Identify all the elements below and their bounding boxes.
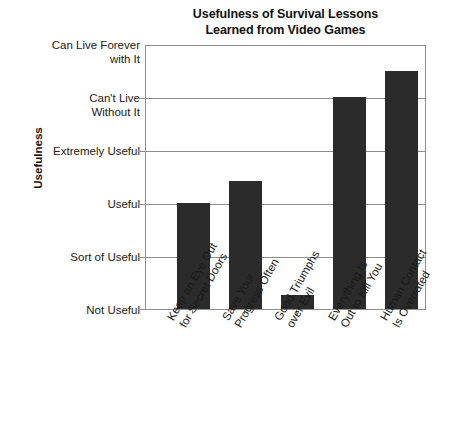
- y-tick-label-line: Can't Live: [0, 91, 140, 105]
- plot-area: [145, 45, 426, 310]
- y-tick-label-line: Without It: [0, 105, 140, 119]
- y-tick-label-line: Useful: [0, 197, 140, 211]
- bar-chart: Usefulness of Survival Lessons Learned f…: [0, 0, 474, 423]
- y-tick-label-extremely-useful: Extremely Useful: [0, 144, 140, 158]
- y-tick-label-line: Can Live Forever: [0, 38, 140, 52]
- y-tick-mark: [138, 257, 145, 258]
- y-tick-label-useful: Useful: [0, 197, 140, 211]
- y-tick-mark: [138, 204, 145, 205]
- y-tick-label-can-live-forever-with-it: Can Live Forever with It: [0, 38, 140, 66]
- y-tick-label-sort-of-useful: Sort of Useful: [0, 250, 140, 264]
- x-axis-labels: Keep an Eye Out for Secret Doors Save Yo…: [0, 310, 474, 423]
- y-tick-mark: [138, 98, 145, 99]
- y-tick-mark: [138, 151, 145, 152]
- chart-title: Usefulness of Survival Lessons Learned f…: [145, 6, 426, 38]
- y-tick-label-line: with It: [0, 52, 140, 66]
- chart-title-line-1: Usefulness of Survival Lessons: [145, 6, 426, 22]
- chart-title-line-2: Learned from Video Games: [145, 22, 426, 38]
- y-tick-label-line: Extremely Useful: [0, 144, 140, 158]
- y-tick-label-cant-live-without-it: Can't Live Without It: [0, 91, 140, 119]
- y-tick-label-line: Sort of Useful: [0, 250, 140, 264]
